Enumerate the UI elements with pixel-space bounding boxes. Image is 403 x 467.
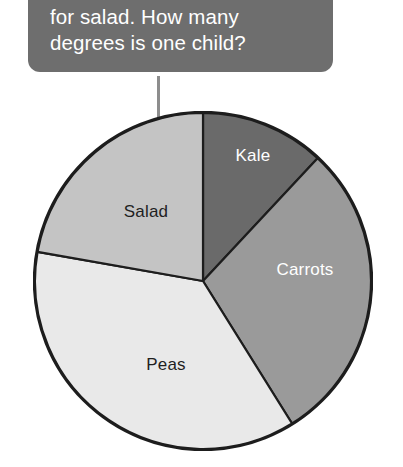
chart-canvas: for salad. How many degrees is one child…	[0, 0, 403, 467]
pie-slice-label-kale: Kale	[236, 146, 271, 166]
callout-line-1: for salad. How many	[50, 4, 319, 30]
pie-chart: KaleCarrotsPeasSalad	[33, 111, 373, 451]
pie-slice-label-salad: Salad	[124, 202, 168, 222]
pie-slice-salad[interactable]	[38, 113, 203, 281]
pie-slice-label-peas: Peas	[146, 355, 186, 375]
pie-chart-svg	[33, 111, 373, 451]
callout-line-2: degrees is one child?	[50, 30, 319, 56]
question-callout-box: for salad. How many degrees is one child…	[28, 0, 333, 72]
pie-slice-label-carrots: Carrots	[276, 260, 333, 280]
